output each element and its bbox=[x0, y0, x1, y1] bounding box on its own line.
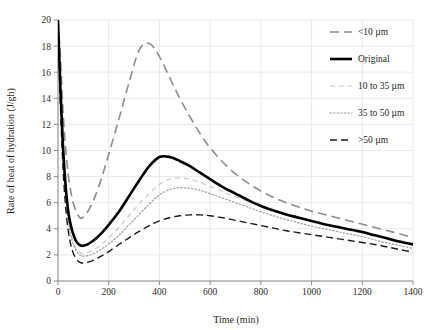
legend-label: 10 to 35 µm bbox=[358, 81, 405, 91]
x-tick-label: 0 bbox=[56, 287, 61, 297]
legend-label: >50 µm bbox=[358, 135, 389, 145]
chart-canvas: 0246810121416182002004006008001000120014… bbox=[0, 0, 443, 330]
y-tick-label: 16 bbox=[42, 68, 52, 78]
x-tick-label: 400 bbox=[152, 287, 167, 297]
y-tick-label: 4 bbox=[46, 224, 51, 234]
chart-figure: 0246810121416182002004006008001000120014… bbox=[0, 0, 443, 330]
x-tick-label: 1400 bbox=[404, 287, 423, 297]
legend-label: 35 to 50 µm bbox=[358, 108, 405, 118]
x-tick-label: 600 bbox=[203, 287, 218, 297]
y-tick-label: 8 bbox=[46, 172, 51, 182]
y-tick-label: 18 bbox=[42, 42, 52, 52]
x-tick-label: 1000 bbox=[302, 287, 321, 297]
legend-label: Original bbox=[358, 54, 390, 64]
x-tick-label: 800 bbox=[254, 287, 269, 297]
x-tick-label: 200 bbox=[102, 287, 117, 297]
y-tick-label: 14 bbox=[42, 94, 52, 104]
legend-label: <10 µm bbox=[358, 27, 389, 37]
x-tick-label: 1200 bbox=[353, 287, 372, 297]
y-tick-label: 12 bbox=[42, 120, 52, 130]
y-tick-label: 0 bbox=[46, 276, 51, 286]
y-tick-label: 10 bbox=[42, 146, 52, 156]
y-tick-label: 2 bbox=[46, 250, 51, 260]
y-axis-title: Rate of heat of hydration (J/gh) bbox=[5, 88, 17, 214]
y-tick-label: 6 bbox=[46, 198, 51, 208]
y-tick-label: 20 bbox=[42, 15, 52, 25]
x-axis-title: Time (min) bbox=[213, 314, 258, 326]
